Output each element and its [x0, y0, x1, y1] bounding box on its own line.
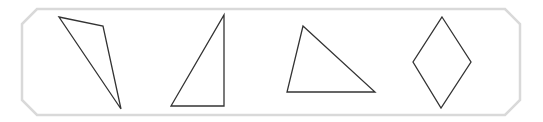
shape-right-triangle	[171, 15, 224, 106]
shape-acute-triangle	[287, 26, 375, 92]
shape-rhombus	[413, 17, 471, 108]
shapes-figure	[0, 0, 543, 122]
shape-obtuse-scalene-triangle	[59, 17, 121, 109]
figure-canvas	[0, 0, 543, 122]
